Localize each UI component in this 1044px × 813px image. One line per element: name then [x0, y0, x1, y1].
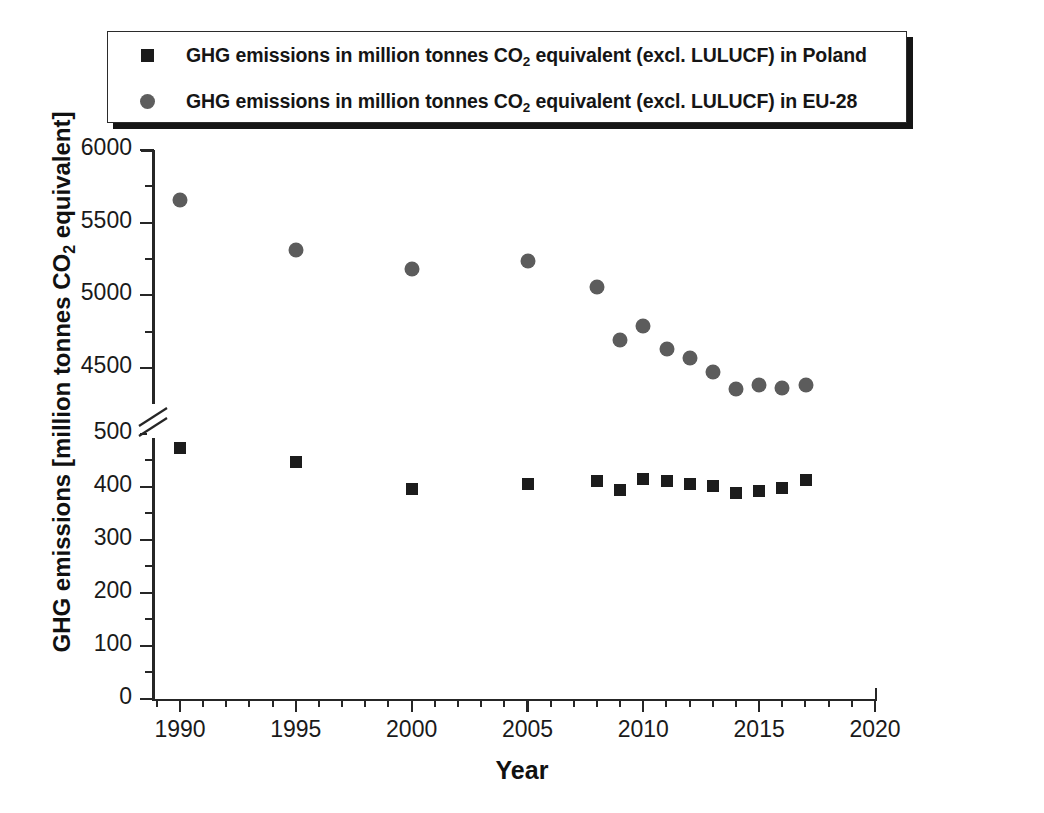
y-tick-major: [140, 539, 153, 541]
x-tick-minor: [387, 699, 389, 707]
data-point-poland: [684, 478, 696, 490]
x-tick-label: 2000: [362, 716, 462, 743]
x-tick-minor: [851, 699, 853, 707]
x-tick-minor: [735, 699, 737, 707]
x-tick-minor: [202, 699, 204, 707]
y-tick-major: [140, 149, 153, 151]
x-tick-major: [179, 699, 181, 712]
x-tick-label: 2020: [825, 716, 925, 743]
data-point-poland: [174, 442, 186, 454]
data-point-poland: [614, 484, 626, 496]
chart-legend: GHG emissions in million tonnes CO2 equi…: [107, 31, 907, 123]
data-point-eu28: [775, 381, 790, 396]
y-tick-minor: [145, 671, 153, 673]
ghg-emissions-scatter-chart: GHG emissions in million tonnes CO2 equi…: [0, 0, 1044, 813]
legend-label-eu28: GHG emissions in million tonnes CO2 equi…: [186, 90, 857, 113]
y-tick-major: [140, 367, 153, 369]
x-tick-minor: [781, 699, 783, 707]
y-tick-minor: [145, 512, 153, 514]
y-tick-label: 0: [12, 683, 132, 710]
axis-break-icon: [137, 404, 171, 438]
x-tick-label: 2010: [593, 716, 693, 743]
legend-marker-square-icon: [108, 49, 186, 62]
y-tick-minor: [145, 258, 153, 260]
x-tick-minor: [457, 699, 459, 707]
x-tick-minor: [712, 699, 714, 707]
legend-marker-circle-icon: [108, 94, 186, 109]
x-tick-minor: [480, 699, 482, 707]
x-tick-minor: [619, 699, 621, 707]
data-point-eu28: [729, 382, 744, 397]
x-tick-minor: [156, 699, 158, 707]
y-tick-minor: [145, 618, 153, 620]
x-tick-major: [411, 699, 413, 712]
x-tick-minor: [550, 699, 552, 707]
data-point-poland: [406, 483, 418, 495]
x-tick-minor: [248, 699, 250, 707]
data-point-poland: [776, 482, 788, 494]
legend-label-poland: GHG emissions in million tonnes CO2 equi…: [186, 44, 867, 67]
data-point-poland: [730, 487, 742, 499]
x-tick-minor: [341, 699, 343, 707]
x-tick-minor: [225, 699, 227, 707]
y-axis-title: GHG emissions [million tonnes CO2 equiva…: [48, 102, 76, 662]
data-point-eu28: [613, 333, 628, 348]
data-point-eu28: [636, 319, 651, 334]
data-point-eu28: [520, 253, 535, 268]
x-tick-minor: [318, 699, 320, 707]
y-tick-minor: [145, 565, 153, 567]
x-tick-minor: [364, 699, 366, 707]
legend-entry-poland: GHG emissions in million tonnes CO2 equi…: [108, 32, 906, 78]
data-point-poland: [522, 478, 534, 490]
data-point-eu28: [682, 351, 697, 366]
data-point-eu28: [173, 192, 188, 207]
x-tick-major: [526, 699, 528, 712]
data-point-poland: [637, 473, 649, 485]
data-point-poland: [661, 475, 673, 487]
data-point-eu28: [590, 279, 605, 294]
x-tick-label: 1990: [130, 716, 230, 743]
y-tick-minor: [145, 185, 153, 187]
x-tick-minor: [689, 699, 691, 707]
data-point-eu28: [288, 242, 303, 257]
y-tick-minor: [145, 331, 153, 333]
y-tick-major: [140, 592, 153, 594]
data-point-eu28: [659, 341, 674, 356]
x-tick-minor: [272, 699, 274, 707]
x-tick-minor: [804, 699, 806, 707]
x-tick-label: 2005: [478, 716, 578, 743]
x-tick-minor: [665, 699, 667, 707]
x-tick-minor: [828, 699, 830, 707]
y-tick-major: [140, 294, 153, 296]
x-tick-minor: [434, 699, 436, 707]
x-tick-minor: [503, 699, 505, 707]
y-tick-major: [140, 222, 153, 224]
data-point-poland: [753, 485, 765, 497]
y-tick-minor: [145, 459, 153, 461]
data-point-poland: [290, 456, 302, 468]
x-tick-major: [758, 699, 760, 712]
x-tick-minor: [573, 699, 575, 707]
y-tick-major: [140, 645, 153, 647]
y-tick-major: [140, 698, 153, 700]
data-point-poland: [800, 474, 812, 486]
data-point-eu28: [798, 377, 813, 392]
x-tick-label: 2015: [709, 716, 809, 743]
y-tick-major: [140, 486, 153, 488]
x-tick-major: [295, 699, 297, 712]
legend-entry-eu28: GHG emissions in million tonnes CO2 equi…: [108, 78, 906, 124]
x-tick-minor: [596, 699, 598, 707]
x-axis-title: Year: [0, 756, 1044, 785]
data-point-eu28: [752, 377, 767, 392]
data-point-poland: [591, 475, 603, 487]
x-axis-line: [152, 699, 877, 702]
data-point-poland: [707, 480, 719, 492]
x-tick-label: 1995: [246, 716, 346, 743]
data-point-eu28: [404, 262, 419, 277]
data-point-eu28: [705, 365, 720, 380]
x-tick-major: [874, 699, 876, 712]
x-tick-major: [642, 699, 644, 712]
